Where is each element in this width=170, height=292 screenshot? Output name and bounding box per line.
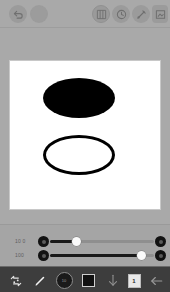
opacity-increase-button[interactable] [155,236,166,247]
layers-icon [96,9,107,20]
undo-button[interactable] [9,5,27,23]
slider-panel: 10 0 100 [0,224,170,266]
export-icon [155,9,166,20]
pen-button[interactable] [132,5,150,23]
size-slider-thumb[interactable] [137,251,146,260]
outline-ellipse[interactable] [43,135,115,175]
export-button[interactable] [152,5,168,23]
top-toolbar [0,0,170,28]
arrow-down-icon [106,273,120,288]
page-icon: 1 [128,274,141,288]
pen-icon [136,9,147,20]
bottom-toolbar: 10 1 [0,266,170,292]
filled-ellipse[interactable] [43,78,115,118]
color-swatch[interactable] [30,5,48,23]
opacity-slider-label: 10 0 [15,237,37,245]
opacity-decrease-button[interactable] [38,236,49,247]
size-track-fill [50,254,142,257]
history-icon [116,9,127,20]
back-button[interactable] [146,271,166,290]
square-icon [82,274,95,287]
size-slider-label: 100 [15,251,37,259]
size-icon: 10 [56,272,73,289]
transform-icon [9,274,23,288]
arrow-left-icon [149,274,164,288]
drawing-canvas[interactable] [10,61,160,209]
undo-icon [13,9,24,20]
size-increase-button[interactable] [155,250,166,261]
size-tool[interactable]: 10 [54,271,74,290]
brush-tool[interactable] [30,271,50,290]
opacity-slider-thumb[interactable] [72,237,81,246]
size-slider[interactable] [50,254,154,257]
drawing-app-window: 10 0 100 [0,0,170,292]
color-tool[interactable] [78,271,98,290]
canvas-area [0,28,170,224]
size-decrease-button[interactable] [38,250,49,261]
layers-button[interactable] [92,5,110,23]
opacity-slider-row: 10 0 [0,235,170,249]
circle-icon [31,6,47,22]
opacity-slider[interactable] [50,240,154,243]
brush-icon [33,274,47,288]
history-button[interactable] [112,5,130,23]
import-tool[interactable] [103,271,123,290]
page-tool[interactable]: 1 [124,271,144,290]
size-slider-row: 100 [0,249,170,263]
transform-tool[interactable] [6,271,26,290]
